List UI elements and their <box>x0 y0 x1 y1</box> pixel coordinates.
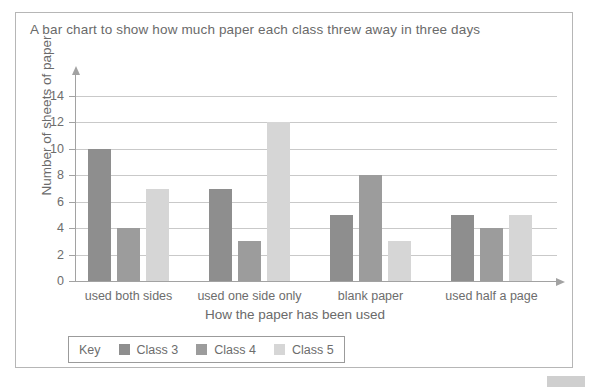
x-axis-line <box>75 281 557 282</box>
y-axis-tick-label: 14 <box>44 90 64 103</box>
chart-title: A bar chart to show how much paper each … <box>30 22 480 37</box>
bar[interactable] <box>330 215 353 281</box>
legend-entry[interactable]: Class 3 <box>119 343 179 357</box>
x-axis-category-label: used one side only <box>180 289 320 303</box>
y-axis-tick-label: 6 <box>44 196 64 209</box>
bar[interactable] <box>238 241 261 281</box>
bar[interactable] <box>359 175 382 281</box>
chart-legend: Key Class 3Class 4Class 5 <box>68 336 345 363</box>
y-axis-tick-label: 4 <box>44 222 64 235</box>
legend-label: Class 5 <box>292 343 334 357</box>
y-axis-tick-label: 2 <box>44 249 64 262</box>
scan-artifact <box>547 376 585 387</box>
bar[interactable] <box>146 189 169 282</box>
legend-swatch-icon <box>119 344 130 355</box>
legend-title: Key <box>79 343 101 357</box>
y-axis-tick <box>69 281 76 282</box>
y-axis-tick-label: 8 <box>44 169 64 182</box>
legend-label: Class 3 <box>137 343 179 357</box>
bar[interactable] <box>509 215 532 281</box>
y-axis-tick-label: 10 <box>44 143 64 156</box>
y-axis-tick-label: 0 <box>44 275 64 288</box>
legend-swatch-icon <box>274 344 285 355</box>
legend-entry[interactable]: Class 4 <box>196 343 256 357</box>
bar[interactable] <box>267 122 290 281</box>
x-axis-category-label: blank paper <box>301 289 441 303</box>
x-axis-category-label: used both sides <box>59 289 199 303</box>
x-axis-category-label: used half a page <box>422 289 562 303</box>
y-axis-tick-labels: 02468101214 <box>40 0 64 390</box>
bar[interactable] <box>451 215 474 281</box>
legend-swatch-icon <box>196 344 207 355</box>
legend-entry[interactable]: Class 5 <box>274 343 334 357</box>
bar[interactable] <box>88 149 111 281</box>
bar[interactable] <box>388 241 411 281</box>
bar[interactable] <box>480 228 503 281</box>
x-axis-arrow-icon <box>556 278 565 286</box>
bar[interactable] <box>117 228 140 281</box>
plot-area <box>75 72 555 281</box>
legend-label: Class 4 <box>214 343 256 357</box>
y-axis-tick-label: 12 <box>44 116 64 129</box>
bar[interactable] <box>209 189 232 282</box>
x-axis-title: How the paper has been used <box>0 307 590 322</box>
